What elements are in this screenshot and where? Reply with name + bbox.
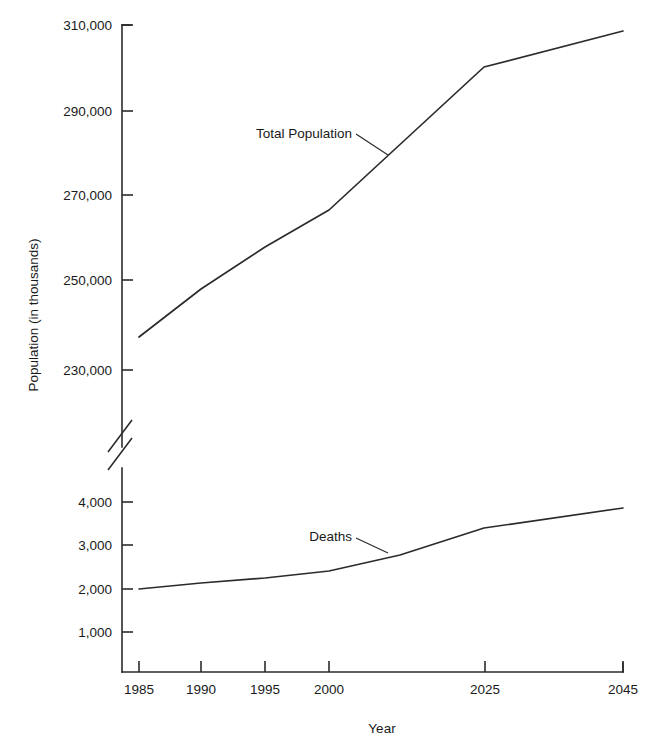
chart-canvas: 310,000 290,000 270,000 250,000 230,000 …: [0, 0, 657, 748]
ytick-label-230000: 230,000: [63, 363, 112, 378]
xtick-label-1995: 1995: [250, 682, 280, 697]
annotation-label-deaths: Deaths: [309, 529, 352, 544]
axis-break-slash-lower: [108, 438, 132, 470]
y-axis-title: Population (in thousands): [26, 238, 41, 391]
ytick-label-290000: 290,000: [63, 104, 112, 119]
ytick-label-270000: 270,000: [63, 188, 112, 203]
annotation-label-total-population: Total Population: [256, 126, 352, 141]
xtick-label-2025: 2025: [470, 682, 500, 697]
xtick-label-2000: 2000: [314, 682, 344, 697]
series-line-deaths: [139, 508, 623, 589]
population-deaths-line-chart: 310,000 290,000 270,000 250,000 230,000 …: [0, 0, 657, 748]
ytick-label-4000: 4,000: [78, 495, 112, 510]
ytick-label-2000: 2,000: [78, 582, 112, 597]
ytick-label-310000: 310,000: [63, 18, 112, 33]
ytick-label-1000: 1,000: [78, 625, 112, 640]
ytick-label-3000: 3,000: [78, 538, 112, 553]
series-line-total-population: [139, 31, 623, 337]
x-axis-title: Year: [368, 721, 396, 736]
annotation-leader-total-population: [356, 134, 388, 155]
ytick-label-250000: 250,000: [63, 273, 112, 288]
annotation-leader-deaths: [356, 538, 388, 553]
axis-break-slash-upper: [108, 420, 132, 452]
xtick-label-1990: 1990: [186, 682, 216, 697]
xtick-label-2045: 2045: [608, 682, 638, 697]
xtick-label-1985: 1985: [124, 682, 154, 697]
